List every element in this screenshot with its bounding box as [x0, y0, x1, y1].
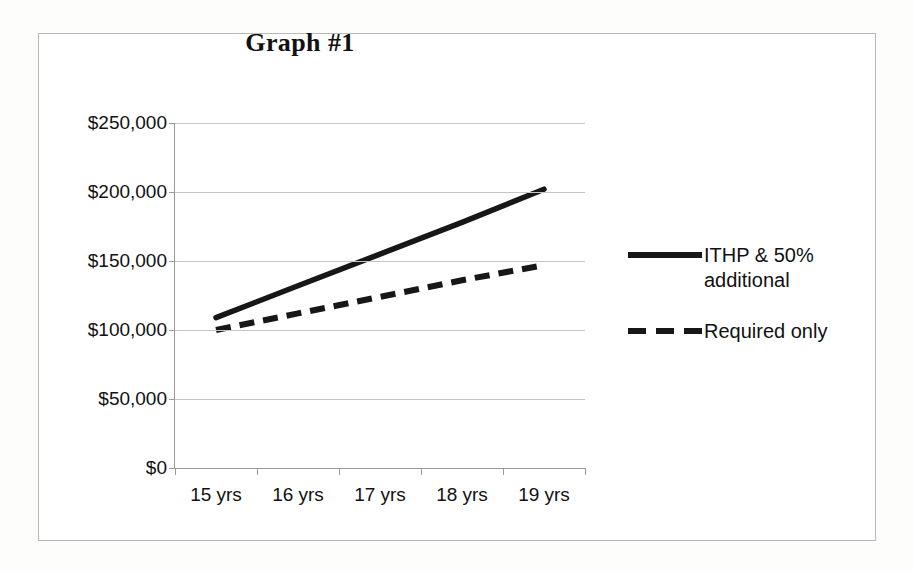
- x-axis-tick: [257, 468, 258, 475]
- gridline: [175, 123, 585, 124]
- y-axis-tick-label: $150,000: [47, 250, 167, 272]
- gridline: [175, 192, 585, 193]
- y-axis-line: [174, 123, 175, 469]
- legend-item[interactable]: Required only: [628, 319, 863, 344]
- dashed-line-swatch: [628, 328, 702, 334]
- y-axis-tick: [169, 123, 175, 124]
- y-axis-tick-label: $200,000: [47, 181, 167, 203]
- chart-legend: ITHP & 50% additionalRequired only: [628, 243, 863, 370]
- y-axis-tick-label: $250,000: [47, 112, 167, 134]
- legend-item[interactable]: ITHP & 50% additional: [628, 243, 863, 293]
- legend-item-label: Required only: [704, 319, 827, 344]
- x-axis-tick: [175, 468, 176, 475]
- y-axis-tick: [169, 261, 175, 262]
- x-axis-tick: [585, 468, 586, 475]
- gridline: [175, 330, 585, 331]
- y-axis-tick: [169, 399, 175, 400]
- x-axis-tick-label: 17 yrs: [339, 484, 421, 514]
- x-axis-tick: [339, 468, 340, 475]
- y-axis-tick-label: $100,000: [47, 319, 167, 341]
- x-axis-tick-label: 16 yrs: [257, 484, 339, 514]
- x-axis-tick-label: 15 yrs: [175, 484, 257, 514]
- x-axis-tick: [503, 468, 504, 475]
- y-axis-tick: [169, 192, 175, 193]
- series-line-ithp-50-additional: [216, 189, 544, 317]
- y-axis-labels: $0$50,000$100,000$150,000$200,000$250,00…: [45, 123, 167, 468]
- solid-line-swatch: [628, 252, 702, 258]
- legend-item-label: ITHP & 50% additional: [704, 243, 863, 293]
- gridline: [175, 399, 585, 400]
- plot-area: [175, 123, 585, 468]
- x-axis-labels: 15 yrs16 yrs17 yrs18 yrs19 yrs: [175, 484, 585, 514]
- series-lines: [175, 123, 585, 469]
- y-axis-tick: [169, 330, 175, 331]
- x-axis-tick-label: 18 yrs: [421, 484, 503, 514]
- y-axis-tick-label: $50,000: [47, 388, 167, 410]
- gridline: [175, 261, 585, 262]
- chart-page: Graph #1 $0$50,000$100,000$150,000$200,0…: [0, 0, 914, 571]
- x-axis-line: [174, 468, 586, 469]
- y-axis-tick-label: $0: [47, 457, 167, 479]
- chart-title: Graph #1: [0, 28, 600, 58]
- x-axis-tick-label: 19 yrs: [503, 484, 585, 514]
- x-axis-tick: [421, 468, 422, 475]
